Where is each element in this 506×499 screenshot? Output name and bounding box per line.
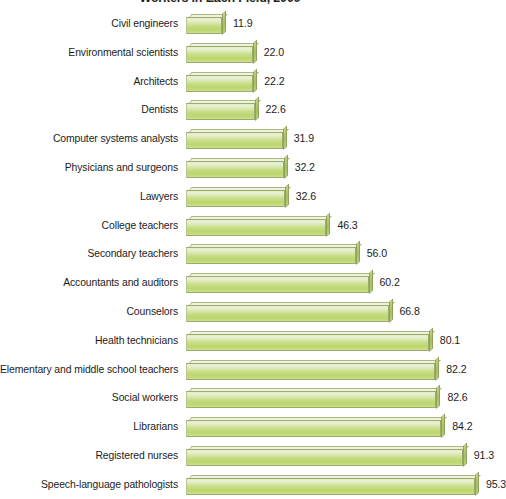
category-label: Accountants and auditors xyxy=(0,271,178,294)
bar-value-label: 80.1 xyxy=(440,329,460,352)
bar-end-face xyxy=(463,442,467,467)
bar-end-face xyxy=(441,414,445,439)
bar-value-label: 46.3 xyxy=(337,214,357,237)
category-label: Environmental scientists xyxy=(0,41,178,64)
bar-end-face xyxy=(284,154,288,179)
bar-end-face xyxy=(429,327,433,352)
bar-row: Civil engineers11.9 xyxy=(0,12,503,38)
category-label: Health technicians xyxy=(0,329,178,352)
bar xyxy=(186,216,326,237)
bar-value-label: 91.3 xyxy=(474,444,494,467)
bar-front-face xyxy=(186,247,356,264)
category-label: Counselors xyxy=(0,300,178,323)
bar-row: Registered nurses91.3 xyxy=(0,444,503,470)
bar-end-face xyxy=(253,39,257,64)
bar xyxy=(186,331,429,352)
bar-value-label: 22.2 xyxy=(264,70,284,93)
bar-value-label: 31.9 xyxy=(294,127,314,150)
category-label: Physicians and surgeons xyxy=(0,156,178,179)
bar-row: Counselors66.8 xyxy=(0,300,503,326)
bar-row: Secondary teachers56.0 xyxy=(0,242,503,268)
bar-end-face xyxy=(255,97,259,122)
bar-front-face xyxy=(186,161,284,178)
bar xyxy=(186,273,369,294)
bar-end-face xyxy=(356,241,360,266)
bar xyxy=(186,417,441,438)
bar-end-face xyxy=(222,10,226,35)
bar-row: Librarians84.2 xyxy=(0,415,503,441)
bar xyxy=(186,100,255,121)
bar-row: Dentists22.6 xyxy=(0,98,503,124)
bar-front-face xyxy=(186,103,255,120)
bar-end-face xyxy=(283,126,287,151)
bar-front-face xyxy=(186,478,475,495)
bar-row: College teachers46.3 xyxy=(0,214,503,240)
bar-front-face xyxy=(186,190,285,207)
bar-value-label: 56.0 xyxy=(367,242,387,265)
bar-value-label: 60.2 xyxy=(380,271,400,294)
bar-value-label: 11.9 xyxy=(233,12,252,35)
bar-end-face xyxy=(389,298,393,323)
bar-row: Computer systems analysts31.9 xyxy=(0,127,503,153)
bar-front-face xyxy=(186,391,436,408)
bar xyxy=(186,129,283,150)
bar-end-face xyxy=(369,270,373,295)
bar-row: Environmental scientists22.0 xyxy=(0,41,503,67)
bar-end-face xyxy=(435,356,439,381)
bar-value-label: 22.0 xyxy=(264,41,284,64)
bar xyxy=(186,43,253,64)
bar-end-face xyxy=(285,183,289,208)
category-label: Lawyers xyxy=(0,185,178,208)
bar xyxy=(186,302,389,323)
bar xyxy=(186,187,285,208)
bar xyxy=(186,360,435,381)
bar-value-label: 82.2 xyxy=(446,358,466,381)
bar-value-label: 32.6 xyxy=(296,185,316,208)
bar-row: Social workers82.6 xyxy=(0,386,503,412)
bar-front-face xyxy=(186,276,369,293)
bar-front-face xyxy=(186,449,463,466)
bar-front-face xyxy=(186,305,389,322)
bar xyxy=(186,446,463,467)
category-label: Social workers xyxy=(0,386,178,409)
bar-value-label: 95.3 xyxy=(486,473,506,496)
bar-value-label: 32.2 xyxy=(295,156,315,179)
bar-row: Physicians and surgeons32.2 xyxy=(0,156,503,182)
category-label: Elementary and middle school teachers xyxy=(0,358,178,381)
category-label: Secondary teachers xyxy=(0,242,178,265)
category-label: College teachers xyxy=(0,214,178,237)
bar-row: Elementary and middle school teachers82.… xyxy=(0,358,503,384)
bar-front-face xyxy=(186,219,326,236)
bar-row: Accountants and auditors60.2 xyxy=(0,271,503,297)
category-label: Speech-language pathologists xyxy=(0,473,178,496)
bar-front-face xyxy=(186,363,435,380)
bar-front-face xyxy=(186,17,222,34)
bar-row: Architects22.2 xyxy=(0,70,503,96)
bar xyxy=(186,14,222,35)
bar-end-face xyxy=(253,68,257,93)
bar-end-face xyxy=(326,212,330,237)
bar-front-face xyxy=(186,420,441,437)
category-label: Civil engineers xyxy=(0,12,178,35)
category-label: Registered nurses xyxy=(0,444,178,467)
bar xyxy=(186,72,253,93)
bar-end-face xyxy=(436,385,440,410)
bar-value-label: 66.8 xyxy=(400,300,420,323)
bar-row: Health technicians80.1 xyxy=(0,329,503,355)
bar-front-face xyxy=(186,46,253,63)
bar-value-label: 82.6 xyxy=(447,386,467,409)
bar-front-face xyxy=(186,132,283,149)
category-label: Dentists xyxy=(0,98,178,121)
bar-value-label: 22.6 xyxy=(266,98,286,121)
bar-front-face xyxy=(186,334,429,351)
bar xyxy=(186,158,284,179)
bar-end-face xyxy=(475,471,479,496)
bar-row: Speech-language pathologists95.3 xyxy=(0,473,503,499)
bar-front-face xyxy=(186,75,253,92)
bar xyxy=(186,244,356,265)
bar-row: Lawyers32.6 xyxy=(0,185,503,211)
category-label: Architects xyxy=(0,70,178,93)
bar-value-label: 84.2 xyxy=(452,415,472,438)
